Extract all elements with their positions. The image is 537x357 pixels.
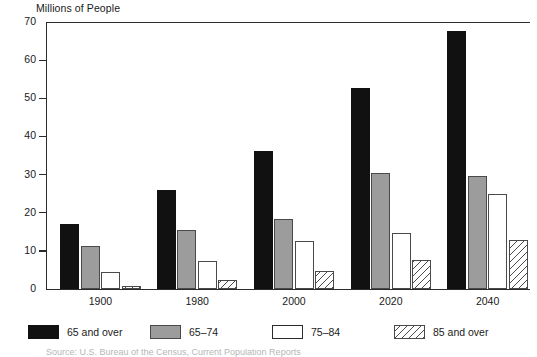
y-axis-tick-label: 50 xyxy=(10,92,36,103)
y-axis-tick xyxy=(39,174,46,175)
legend-label-3: 85 and over xyxy=(433,327,488,338)
bar-2000-series-0 xyxy=(254,151,273,289)
bar-1980-series-2 xyxy=(198,261,217,289)
legend-label-2: 75–84 xyxy=(311,327,340,338)
bar-2000-series-1 xyxy=(274,219,293,289)
chart-axis-title: Millions of People xyxy=(36,2,120,14)
x-axis-labels: 19001980200020202040 xyxy=(46,295,530,311)
y-axis-tick-label: 70 xyxy=(10,16,36,27)
x-axis-label-2040: 2040 xyxy=(476,295,499,307)
bar-group xyxy=(254,22,335,289)
bar-2040-series-3 xyxy=(509,240,528,289)
bar-2040-series-1 xyxy=(468,176,487,289)
bar-2000-series-2 xyxy=(295,241,314,289)
bar-1980-series-3 xyxy=(218,280,237,289)
bar-1900-series-2 xyxy=(101,272,120,289)
bar-group xyxy=(60,22,141,289)
x-axis-label-1900: 1900 xyxy=(89,295,112,307)
legend-swatch-2 xyxy=(272,325,303,339)
y-axis-tick xyxy=(39,60,46,61)
bar-group xyxy=(157,22,238,289)
y-axis-tick xyxy=(39,212,46,213)
bar-1980-series-0 xyxy=(157,190,176,289)
legend-item-2[interactable]: 75–84 xyxy=(272,325,340,339)
x-axis-label-2000: 2000 xyxy=(282,295,305,307)
bar-chart: Millions of People 010203040506070 19001… xyxy=(0,0,537,357)
legend-item-1[interactable]: 65–74 xyxy=(150,325,218,339)
legend-label-0: 65 and over xyxy=(67,327,122,338)
y-axis-tick xyxy=(39,250,46,251)
bar-1900-series-1 xyxy=(81,246,100,289)
legend-swatch-3 xyxy=(394,325,425,339)
bar-1900-series-0 xyxy=(60,224,79,289)
x-axis-label-2020: 2020 xyxy=(379,295,402,307)
chart-legend: 65 and over65–7475–8485 and over xyxy=(28,325,528,345)
bar-group xyxy=(351,22,432,289)
x-axis-line xyxy=(46,289,530,290)
bar-1980-series-1 xyxy=(177,230,196,289)
y-axis-tick-label: 30 xyxy=(10,169,36,180)
y-axis-tick-label: 10 xyxy=(10,245,36,256)
bar-2020-series-3 xyxy=(412,260,431,289)
y-axis-tick-label: 40 xyxy=(10,130,36,141)
legend-swatch-0 xyxy=(28,325,59,339)
y-axis-tick xyxy=(39,98,46,99)
bar-group xyxy=(447,22,528,289)
bar-2040-series-2 xyxy=(488,194,507,289)
legend-label-1: 65–74 xyxy=(189,327,218,338)
y-axis-tick-label: 0 xyxy=(10,283,36,294)
bar-2020-series-2 xyxy=(392,233,411,289)
y-axis-tick-label: 20 xyxy=(10,207,36,218)
bar-2020-series-0 xyxy=(351,88,370,289)
bar-2020-series-1 xyxy=(371,173,390,289)
bar-2000-series-3 xyxy=(315,271,334,289)
y-axis-labels: 010203040506070 xyxy=(0,0,36,357)
legend-item-3[interactable]: 85 and over xyxy=(394,325,488,339)
footer-source-text: Source: U.S. Bureau of the Census, Curre… xyxy=(46,349,301,357)
bar-groups xyxy=(46,22,530,289)
y-axis-tick xyxy=(39,136,46,137)
x-axis-label-1980: 1980 xyxy=(186,295,209,307)
footer-strip: Source: U.S. Bureau of the Census, Curre… xyxy=(0,349,537,357)
legend-item-0[interactable]: 65 and over xyxy=(28,325,122,339)
bar-2040-series-0 xyxy=(447,31,466,289)
y-axis-tick-label: 60 xyxy=(10,54,36,65)
legend-swatch-1 xyxy=(150,325,181,339)
bar-1900-series-3 xyxy=(122,286,141,289)
